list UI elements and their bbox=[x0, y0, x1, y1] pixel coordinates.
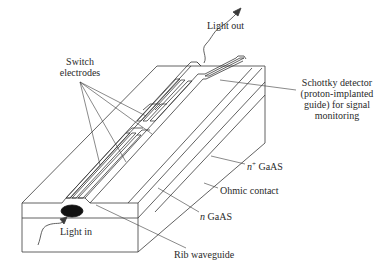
rib-waveguide bbox=[62, 56, 246, 203]
diagram-canvas: Light out Switch electrodes Schottky det… bbox=[0, 0, 389, 273]
label-schottky-line3: guide) for signal bbox=[287, 99, 387, 110]
label-light-in: Light in bbox=[60, 226, 92, 237]
label-switch-electrodes-line2: electrodes bbox=[50, 67, 110, 78]
label-rib-waveguide: Rib waveguide bbox=[174, 249, 234, 260]
label-n-gaas: n GaAS bbox=[200, 211, 232, 222]
label-n-plus-gaas: n+ GaAS bbox=[247, 159, 283, 172]
arrow-head-icon bbox=[233, 8, 241, 16]
label-schottky-line4: monitoring bbox=[287, 110, 387, 121]
label-light-out: Light out bbox=[207, 20, 244, 31]
label-schottky-line2: (proton-implanted bbox=[287, 88, 387, 99]
label-schottky-detector: Schottky detector (proton-implanted guid… bbox=[287, 77, 387, 121]
label-ohmic-contact: Ohmic contact bbox=[220, 185, 279, 196]
label-n-material: GaAS bbox=[205, 211, 232, 222]
label-schottky-line1: Schottky detector bbox=[287, 77, 387, 88]
label-switch-electrodes: Switch electrodes bbox=[50, 56, 110, 78]
switch-electrodes bbox=[66, 58, 244, 198]
label-n-plus-material: GaAS bbox=[256, 161, 283, 172]
substrate-block bbox=[22, 66, 265, 252]
device-drawing bbox=[0, 0, 389, 273]
light-in-spot bbox=[61, 205, 83, 217]
label-switch-electrodes-line1: Switch bbox=[50, 56, 110, 67]
